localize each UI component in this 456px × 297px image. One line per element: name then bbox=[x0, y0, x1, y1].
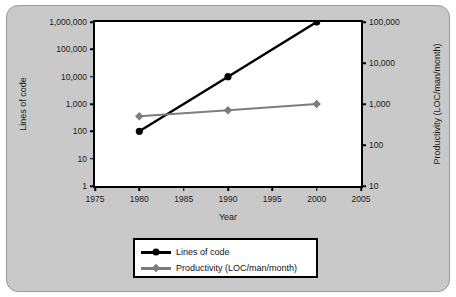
data-point-marker bbox=[224, 106, 232, 114]
x-axis-tick-label: 1990 bbox=[219, 194, 238, 204]
x-axis-tickmark bbox=[360, 186, 362, 191]
legend-label-lines-of-code: Lines of code bbox=[176, 247, 230, 257]
x-axis-tickmark bbox=[272, 186, 274, 191]
y-axis-left-tick-label: 1,000,000 bbox=[18, 17, 87, 27]
legend-item-productivity: Productivity (LOC/man/month) bbox=[141, 260, 310, 276]
data-point-marker bbox=[135, 112, 143, 120]
y-axis-left-tick-label: 100 bbox=[18, 126, 87, 136]
chart-legend: Lines of code Productivity (LOC/man/mont… bbox=[133, 238, 318, 278]
y-axis-right-tick-label: 1,000 bbox=[369, 99, 390, 109]
legend-marker-circle-icon bbox=[141, 246, 171, 258]
x-axis-tickmark bbox=[316, 186, 318, 191]
y-axis-right-tick-label: 10 bbox=[369, 181, 378, 191]
data-point-marker bbox=[224, 73, 231, 80]
y-axis-right-tickmark bbox=[361, 21, 366, 23]
y-axis-left-title: Lines of code bbox=[18, 77, 28, 131]
y-axis-left-tick-label: 10,000 bbox=[18, 72, 87, 82]
plot-svg bbox=[95, 22, 361, 186]
y-axis-left-tickmark bbox=[90, 49, 95, 51]
y-axis-right-tickmark bbox=[361, 185, 366, 187]
legend-item-lines-of-code: Lines of code bbox=[141, 244, 310, 260]
plot-area bbox=[93, 20, 363, 188]
y-axis-left-tickmark bbox=[90, 76, 95, 78]
data-point-marker bbox=[313, 22, 320, 26]
y-axis-right-title: Productivity (LOC/man/month) bbox=[432, 43, 442, 164]
y-axis-left-tick-label: 1,000 bbox=[18, 99, 87, 109]
x-axis-tick-label: 2000 bbox=[307, 194, 326, 204]
x-axis-tick-label: 1980 bbox=[130, 194, 149, 204]
x-axis-title: Year bbox=[219, 212, 237, 222]
data-point-marker bbox=[136, 128, 143, 135]
y-axis-left-tickmark bbox=[90, 158, 95, 160]
x-axis-tick-label: 1985 bbox=[174, 194, 193, 204]
y-axis-left-tickmark bbox=[90, 103, 95, 105]
x-axis-tick-label: 2005 bbox=[352, 194, 371, 204]
x-axis-tickmark bbox=[183, 186, 185, 191]
x-axis-tickmark bbox=[94, 186, 96, 191]
y-axis-left-tick-label: 1 bbox=[18, 181, 87, 191]
y-axis-right-tick-label: 100,000 bbox=[369, 17, 400, 27]
chart-figure: 1,000,000100,00010,0001,000100101 100,00… bbox=[0, 0, 456, 297]
y-axis-right-tickmark bbox=[361, 103, 366, 105]
x-axis-tickmark bbox=[227, 186, 229, 191]
data-point-marker bbox=[312, 100, 320, 108]
legend-marker-diamond-icon bbox=[141, 262, 171, 274]
y-axis-right-tickmark bbox=[361, 144, 366, 146]
y-axis-right-tick-label: 10,000 bbox=[369, 58, 395, 68]
y-axis-right-tickmark bbox=[361, 62, 366, 64]
y-axis-left-tick-label: 10 bbox=[18, 154, 87, 164]
x-axis-tickmark bbox=[139, 186, 141, 191]
y-axis-left-tickmark bbox=[90, 131, 95, 133]
x-axis-tick-label: 1995 bbox=[263, 194, 282, 204]
legend-label-productivity: Productivity (LOC/man/month) bbox=[176, 263, 297, 273]
y-axis-left-tickmark bbox=[90, 21, 95, 23]
x-axis-tick-label: 1975 bbox=[86, 194, 105, 204]
y-axis-right-tick-label: 100 bbox=[369, 140, 383, 150]
y-axis-left-tick-label: 100,000 bbox=[18, 44, 87, 54]
